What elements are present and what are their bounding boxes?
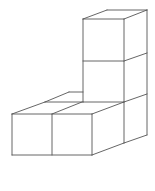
cube-edge — [124, 94, 147, 102]
cube-edge — [92, 143, 124, 155]
cube-stack-diagram — [0, 0, 155, 191]
cube-edge — [52, 102, 82, 114]
cube-stack-figure — [0, 0, 155, 191]
cube-edge — [83, 10, 107, 19]
cube-edge — [124, 135, 147, 143]
cube-edge — [92, 102, 124, 114]
cube-edge — [124, 53, 147, 61]
cube-edge — [12, 102, 45, 114]
cube-edge — [124, 10, 147, 19]
cube-edge — [45, 92, 69, 102]
